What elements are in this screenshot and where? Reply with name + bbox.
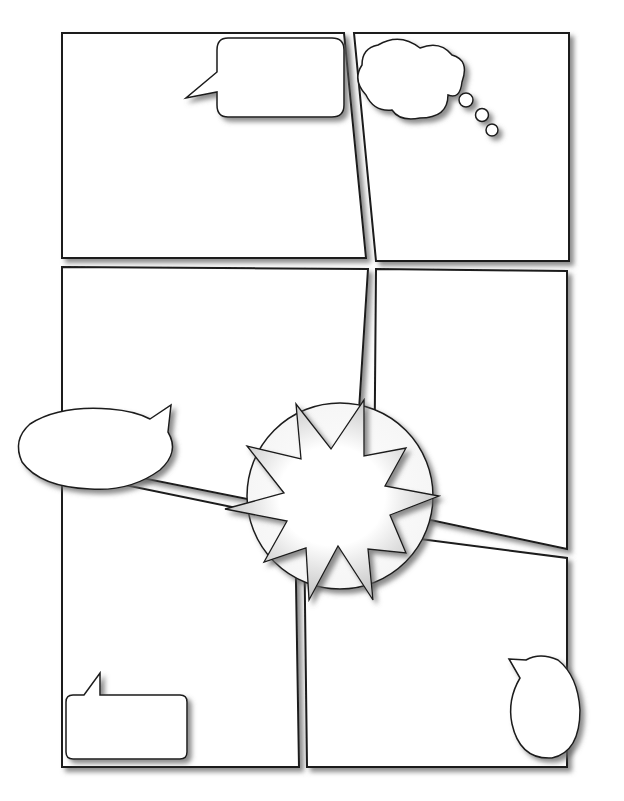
speech-bubble-bottom-right[interactable] [509,656,580,758]
comic-page [0,0,624,801]
